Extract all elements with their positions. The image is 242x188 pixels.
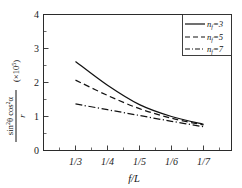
curve-nf-7 [76, 104, 204, 127]
y-tick-label-2: 2 [34, 77, 39, 88]
curve-nf-3 [76, 61, 204, 124]
x-axis-ticks [60, 146, 220, 151]
y-scale-close: ) [11, 60, 21, 63]
legend-label-nf-7: nf=7 [207, 44, 224, 55]
x-tick-label-1-7: 1/7 [197, 156, 211, 167]
y-axis-denominator: r [17, 114, 27, 118]
x-tick-label-1-4: 1/4 [101, 156, 114, 167]
y-axis-numerator: sin2θ cos2α [5, 96, 15, 135]
legend: nf=3 nf=5 nf=7 [183, 15, 232, 56]
curve-nf-5 [76, 80, 204, 125]
x-axis-title: f/L [128, 173, 140, 184]
y-num-theta: θ cos [5, 104, 15, 122]
y-tick-label-1: 1 [34, 111, 39, 122]
data-curves [76, 61, 204, 126]
legend-val-0: =3 [213, 19, 223, 29]
y-axis-scale: (×105) [11, 60, 21, 82]
y-tick-label-4: 4 [34, 9, 39, 20]
y-tick-label-0: 0 [34, 145, 39, 156]
x-tick-label-1-3: 1/3 [69, 156, 82, 167]
y-scale-open: (×10 [11, 66, 21, 82]
legend-val-1: =5 [213, 32, 224, 42]
legend-label-nf-5: nf=5 [207, 32, 224, 43]
y-axis-title: sin2θ cos2α r (×105) [5, 60, 27, 142]
y-axis-ticks [44, 15, 49, 151]
legend-label-nf-3: nf=3 [207, 19, 223, 30]
legend-val-2: =7 [213, 44, 224, 54]
y-num-alpha: α [5, 96, 15, 101]
y-tick-label-3: 3 [34, 43, 39, 54]
chart-figure: 4 3 2 1 0 1/3 1/4 1/5 1/6 1/7 f/L [0, 0, 242, 188]
x-tick-label-1-6: 1/6 [165, 156, 178, 167]
line-chart-svg: 4 3 2 1 0 1/3 1/4 1/5 1/6 1/7 f/L [0, 0, 242, 188]
x-tick-label-1-5: 1/5 [133, 156, 146, 167]
